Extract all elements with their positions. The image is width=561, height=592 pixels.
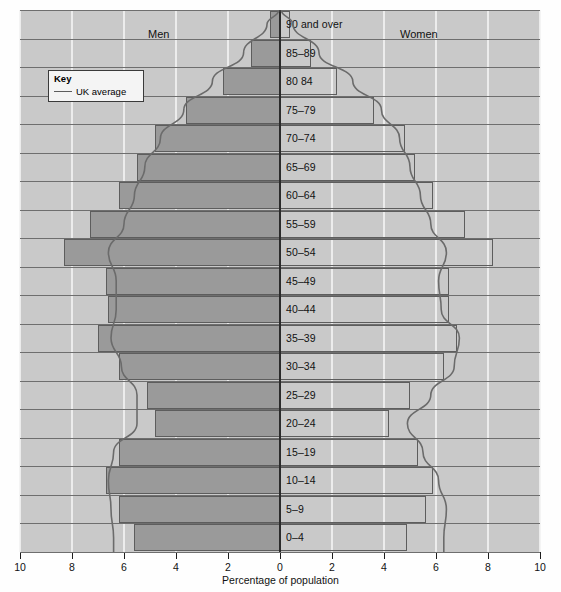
x-axis-tick-label: 6 bbox=[121, 561, 127, 573]
table-row bbox=[64, 239, 280, 266]
table-row bbox=[119, 439, 280, 466]
table-row bbox=[134, 524, 280, 551]
table-row bbox=[155, 410, 280, 437]
x-axis-tick bbox=[72, 552, 73, 559]
table-row bbox=[119, 182, 280, 209]
table-row bbox=[280, 125, 405, 152]
x-axis-tick bbox=[384, 552, 385, 559]
x-axis-tick-label: 2 bbox=[329, 561, 335, 573]
x-axis-tick bbox=[228, 552, 229, 559]
x-axis-tick bbox=[280, 552, 281, 559]
legend-entry-label: UK average bbox=[76, 86, 126, 97]
table-row bbox=[155, 125, 280, 152]
legend-key-box: Key UK average bbox=[48, 70, 144, 102]
table-row bbox=[223, 68, 280, 95]
x-axis-tick-label: 4 bbox=[381, 561, 387, 573]
x-axis-tick-label: 2 bbox=[225, 561, 231, 573]
table-row bbox=[119, 353, 280, 380]
x-axis-tick bbox=[332, 552, 333, 559]
caption-women: Women bbox=[400, 28, 438, 40]
line-swatch-icon bbox=[54, 91, 72, 92]
table-row bbox=[280, 467, 433, 494]
table-row bbox=[280, 182, 433, 209]
table-row bbox=[280, 211, 465, 238]
table-row bbox=[280, 410, 389, 437]
table-row bbox=[280, 439, 418, 466]
table-row bbox=[106, 467, 280, 494]
gridline-10 bbox=[19, 10, 21, 552]
table-row bbox=[280, 40, 311, 67]
row-separator bbox=[20, 552, 540, 553]
x-axis-tick-label: 4 bbox=[173, 561, 179, 573]
x-axis-tick bbox=[540, 552, 541, 559]
caption-men: Men bbox=[148, 28, 169, 40]
table-row bbox=[137, 154, 280, 181]
x-axis-title: Percentage of population bbox=[0, 574, 561, 586]
age-group-label: 90 and over bbox=[286, 10, 343, 39]
x-axis-tick-label: 0 bbox=[277, 561, 283, 573]
table-row bbox=[280, 296, 449, 323]
x-axis-tick-label: 8 bbox=[485, 561, 491, 573]
population-pyramid-chart: 90 and over85–8980 8475–7970–7465–6960–6… bbox=[0, 0, 561, 592]
x-axis-tick bbox=[176, 552, 177, 559]
table-row bbox=[280, 353, 444, 380]
table-row bbox=[251, 40, 280, 67]
table-row bbox=[280, 11, 290, 38]
centre-axis-line bbox=[279, 10, 281, 552]
x-axis-tick-label: 6 bbox=[433, 561, 439, 573]
x-axis-tick bbox=[436, 552, 437, 559]
x-axis-tick-label: 10 bbox=[534, 561, 546, 573]
table-row bbox=[98, 325, 280, 352]
table-row bbox=[280, 325, 457, 352]
table-row bbox=[280, 239, 493, 266]
table-row bbox=[280, 154, 415, 181]
legend-entry-uk-average: UK average bbox=[54, 86, 143, 97]
table-row bbox=[106, 268, 280, 295]
table-row bbox=[108, 296, 280, 323]
table-row bbox=[280, 524, 407, 551]
gridline-10 bbox=[539, 10, 541, 552]
table-row bbox=[147, 382, 280, 409]
x-axis-tick bbox=[488, 552, 489, 559]
x-axis-tick bbox=[20, 552, 21, 559]
table-row bbox=[186, 97, 280, 124]
table-row bbox=[280, 97, 374, 124]
table-row bbox=[280, 382, 410, 409]
x-axis-tick-label: 10 bbox=[14, 561, 26, 573]
table-row bbox=[119, 496, 280, 523]
legend-title: Key bbox=[54, 73, 143, 84]
gridline-8 bbox=[487, 10, 489, 552]
table-row bbox=[280, 496, 426, 523]
x-axis: 1086420246810 bbox=[20, 552, 540, 562]
x-axis-tick-label: 8 bbox=[69, 561, 75, 573]
table-row bbox=[280, 268, 449, 295]
table-row bbox=[280, 68, 337, 95]
x-axis-tick bbox=[124, 552, 125, 559]
table-row bbox=[90, 211, 280, 238]
